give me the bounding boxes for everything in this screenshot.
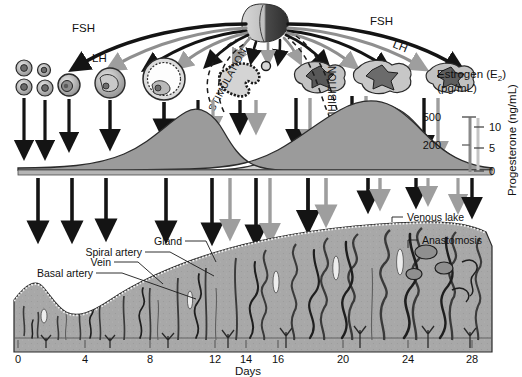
figure-canvas: FSH LH FSH LH bbox=[0, 0, 522, 377]
x-tick-24: 24 bbox=[402, 353, 414, 365]
estrogen-axis-units: (pg/mL) bbox=[437, 82, 477, 94]
progesterone-axis bbox=[474, 118, 484, 172]
progesterone-tick-5: 5 bbox=[489, 142, 495, 154]
anastomosis-label: Anastomosis bbox=[422, 234, 482, 246]
ovarian-stage-secondary-follicle bbox=[95, 68, 125, 98]
progesterone-tick-10: 10 bbox=[489, 121, 501, 133]
x-tick-28: 28 bbox=[466, 353, 478, 365]
lh-label-left: LH bbox=[92, 52, 107, 64]
fsh-label-right: FSH bbox=[370, 15, 393, 27]
ovarian-stage-primordial-follicles bbox=[16, 60, 53, 96]
x-tick-20: 20 bbox=[337, 353, 349, 365]
x-tick-0: 0 bbox=[15, 353, 21, 365]
estrogen-tick-500: 500 bbox=[423, 111, 441, 123]
estrogen-tick-200: 200 bbox=[423, 139, 441, 151]
gland-label: Gland bbox=[154, 235, 182, 247]
progesterone-tick-0: 0 bbox=[489, 165, 495, 177]
basal-artery-label: Basal artery bbox=[37, 267, 94, 279]
vein-label: Vein bbox=[91, 256, 112, 268]
x-tick-12: 12 bbox=[209, 353, 221, 365]
endometrium-diagram bbox=[14, 222, 492, 352]
x-tick-4: 4 bbox=[82, 353, 88, 365]
x-tick-14: 14 bbox=[240, 353, 252, 365]
ovarian-stage-mature-corpus-luteum bbox=[353, 60, 410, 93]
x-tick-8: 8 bbox=[147, 353, 153, 365]
ovarian-stage-primary-follicle bbox=[58, 74, 80, 96]
fsh-label-left: FSH bbox=[72, 22, 95, 34]
x-axis-tick-labels: 0 4 8 12 14 16 20 24 28 bbox=[15, 353, 478, 365]
x-axis-title: Days bbox=[235, 365, 261, 377]
x-tick-16: 16 bbox=[272, 353, 284, 365]
progesterone-axis-title: Progesterone (ng/mL) bbox=[506, 84, 518, 196]
pituitary-gland bbox=[242, 4, 289, 42]
hormone-baseline-band bbox=[18, 170, 492, 175]
venous-lake-label: Venous lake bbox=[407, 211, 464, 223]
ovarian-stage-graafian-follicle bbox=[143, 58, 185, 100]
